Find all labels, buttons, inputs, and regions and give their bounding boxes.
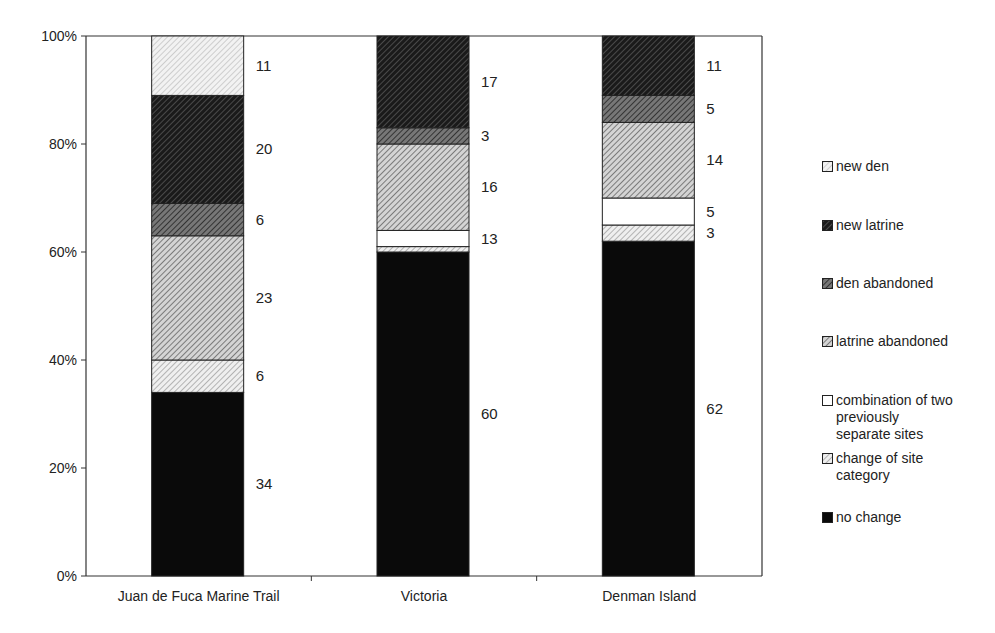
data-label: 3 bbox=[481, 127, 489, 144]
legend-item-new-den: new den bbox=[822, 158, 992, 175]
data-label: 13 bbox=[481, 230, 498, 247]
bar-denman-island bbox=[602, 36, 694, 576]
stacked-bar-chart: 0%20%40%60%80%100%Juan de Fuca Marine Tr… bbox=[0, 0, 995, 633]
bar-juan-de-fuca-marine-trail bbox=[152, 36, 244, 576]
legend-swatch-icon bbox=[822, 278, 833, 289]
legend-label: latrine abandoned bbox=[836, 333, 948, 350]
data-label: 20 bbox=[256, 140, 273, 157]
bar-segment-new-latrine bbox=[152, 95, 244, 203]
legend-label: den abandoned bbox=[836, 275, 933, 292]
legend-label: new den bbox=[836, 158, 889, 175]
data-label: 11 bbox=[256, 57, 272, 74]
bars bbox=[152, 36, 695, 576]
bar-segment-new-latrine bbox=[377, 36, 469, 128]
data-label: 34 bbox=[256, 475, 273, 492]
data-label: 14 bbox=[706, 151, 723, 168]
legend-swatch-icon bbox=[822, 512, 833, 523]
legend-item-den-abandoned: den abandoned bbox=[822, 275, 992, 292]
legend-swatch-icon bbox=[822, 395, 833, 406]
legend-swatch-icon bbox=[822, 453, 833, 464]
data-label: 5 bbox=[706, 100, 714, 117]
data-label: 6 bbox=[256, 367, 264, 384]
legend-label: no change bbox=[836, 509, 901, 526]
bar-segment-combination-of-two-previously-separate-sites bbox=[377, 230, 469, 246]
bar-segment-change-of-site-category bbox=[377, 247, 469, 252]
bar-segment-no-change bbox=[377, 252, 469, 576]
legend-item-combination: combination of two previously separate s… bbox=[822, 392, 992, 443]
legend-item-latrine-abandoned: latrine abandoned bbox=[822, 333, 992, 350]
data-label: 6 bbox=[256, 211, 264, 228]
legend-label: new latrine bbox=[836, 217, 904, 234]
bar-segment-change-of-site-category bbox=[602, 225, 694, 241]
legend-item-no-change: no change bbox=[822, 509, 992, 526]
bar-segment-change-of-site-category bbox=[152, 360, 244, 392]
x-category-label: Juan de Fuca Marine Trail bbox=[118, 588, 280, 604]
data-label: 62 bbox=[706, 400, 723, 417]
bar-segment-combination-of-two-previously-separate-sites bbox=[602, 198, 694, 225]
y-tick-label: 0% bbox=[57, 568, 77, 584]
bar-segment-no-change bbox=[152, 392, 244, 576]
bar-segment-latrine-abandoned bbox=[152, 236, 244, 360]
bar-segment-den-abandoned bbox=[377, 128, 469, 144]
x-category-label: Victoria bbox=[401, 588, 448, 604]
legend-item-new-latrine: new latrine bbox=[822, 217, 992, 234]
y-tick-label: 20% bbox=[49, 460, 77, 476]
data-label: 3 bbox=[706, 224, 714, 241]
y-tick-label: 100% bbox=[41, 28, 77, 44]
legend-swatch-icon bbox=[822, 161, 833, 172]
legend-item-change-category: change of site category bbox=[822, 450, 992, 484]
data-label: 23 bbox=[256, 289, 273, 306]
x-category-label: Denman Island bbox=[602, 588, 696, 604]
bar-segment-den-abandoned bbox=[602, 95, 694, 122]
data-label: 5 bbox=[706, 203, 714, 220]
y-tick-label: 40% bbox=[49, 352, 77, 368]
data-label: 17 bbox=[481, 73, 498, 90]
legend-swatch-icon bbox=[822, 220, 833, 231]
bar-segment-new-den bbox=[152, 36, 244, 95]
legend-label: change of site category bbox=[836, 450, 923, 484]
y-tick-label: 60% bbox=[49, 244, 77, 260]
bar-segment-no-change bbox=[602, 241, 694, 576]
bar-segment-latrine-abandoned bbox=[377, 144, 469, 230]
bar-segment-den-abandoned bbox=[152, 203, 244, 235]
y-tick-label: 80% bbox=[49, 136, 77, 152]
data-label: 11 bbox=[706, 57, 722, 74]
bar-segment-new-latrine bbox=[602, 36, 694, 95]
data-label: 60 bbox=[481, 405, 498, 422]
legend-label: combination of two previously separate s… bbox=[836, 392, 953, 443]
bar-victoria bbox=[377, 36, 469, 576]
bar-segment-latrine-abandoned bbox=[602, 122, 694, 198]
data-label: 16 bbox=[481, 178, 498, 195]
legend-swatch-icon bbox=[822, 336, 833, 347]
